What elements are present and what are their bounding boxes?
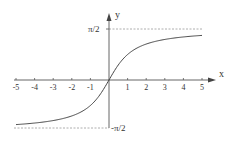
x-tick-label: 1 <box>126 84 130 92</box>
y-axis-arrow-icon <box>107 13 112 21</box>
x-tick-label: -5 <box>13 84 20 92</box>
neg-pi-half-label: -π/2 <box>111 124 126 133</box>
x-tick-label: 2 <box>144 84 148 92</box>
x-tick-label: 5 <box>200 84 204 92</box>
x-axis-label: x <box>219 69 224 79</box>
x-tick-label: -2 <box>68 84 75 92</box>
x-tick-label: -1 <box>87 84 94 92</box>
x-tick-label: 4 <box>181 84 185 92</box>
y-axis-label: y <box>115 10 120 20</box>
x-tick-label: 3 <box>163 84 167 92</box>
x-axis-arrow-icon <box>208 78 216 83</box>
pi-half-label: π/2 <box>88 25 100 34</box>
x-tick-label: -3 <box>50 84 57 92</box>
x-tick-label: -4 <box>31 84 38 92</box>
